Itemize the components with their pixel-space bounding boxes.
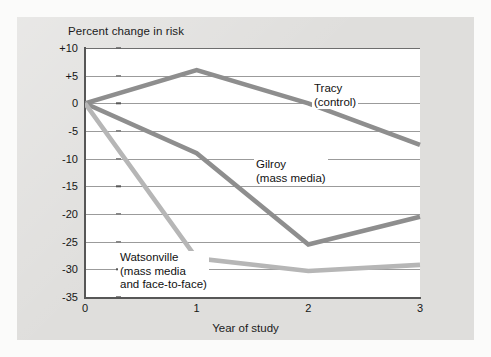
series-label-gilroy-line2: (mass media): [256, 172, 326, 186]
series-label-watsonville-line3: and face-to-face): [120, 278, 207, 292]
series-label-watsonville: Watsonville (mass media and face-to-face…: [118, 251, 209, 292]
y-tick-label: -30: [62, 263, 78, 275]
series-label-watsonville-line1: Watsonville: [120, 251, 207, 265]
series-label-tracy: Tracy (control): [312, 82, 358, 109]
series-label-tracy-line2: (control): [314, 96, 356, 110]
y-tick-label: +5: [65, 70, 78, 82]
x-tick-label: 1: [194, 302, 200, 314]
x-tick-label: 0: [82, 302, 88, 314]
y-tick-label: -35: [62, 291, 78, 303]
y-tick-label: 0: [72, 97, 78, 109]
y-tick-label: -10: [62, 153, 78, 165]
series-label-gilroy-line1: Gilroy: [256, 158, 326, 172]
series-label-gilroy: Gilroy (mass media): [254, 158, 328, 185]
y-tick-label: +10: [59, 42, 78, 54]
y-tick-label: -20: [62, 208, 78, 220]
x-axis-title: Year of study: [0, 322, 491, 334]
y-tick-label: -15: [62, 180, 78, 192]
x-tick-label: 3: [417, 302, 423, 314]
y-tick-label: -5: [68, 125, 78, 137]
y-axis-tick-labels: +10+50-5-10-15-20-25-30-35: [36, 48, 78, 297]
y-tick-label: -25: [62, 236, 78, 248]
chart-figure: Percent change in risk +10+50-5-10-15-20…: [0, 0, 491, 357]
series-label-tracy-line1: Tracy: [314, 82, 356, 96]
series-label-watsonville-line2: (mass media: [120, 265, 207, 279]
x-tick-label: 2: [305, 302, 311, 314]
series-line: [85, 70, 420, 145]
chart-title: Percent change in risk: [68, 25, 184, 37]
